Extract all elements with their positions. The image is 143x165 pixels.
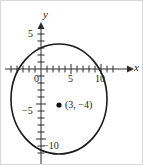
y-axis-arrowhead (38, 22, 45, 29)
y-tick-label-neg10: −10 (43, 141, 59, 151)
point-annotation-label: (3, −4) (65, 100, 92, 110)
circle-curve (11, 44, 107, 154)
data-point-center (56, 102, 61, 107)
y-tick-label-neg5: −5 (22, 106, 33, 116)
y-tick-label-5: 5 (28, 29, 33, 39)
x-axis-arrowhead (127, 66, 134, 73)
x-tick-label-5: 5 (68, 74, 73, 84)
x-tick-label-10: 10 (95, 74, 105, 84)
x-tick-label-0: 0 (34, 74, 39, 84)
x-axis-label: x (134, 62, 139, 73)
y-axis-label: y (43, 9, 48, 20)
circle-graph-figure: x y 0 5 10 5 −5 −10 (3, −4) (0, 0, 143, 165)
